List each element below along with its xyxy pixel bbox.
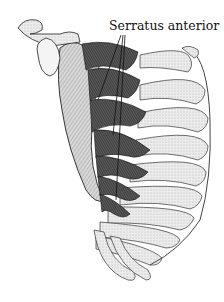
label-serratus-anterior: Serratus anterior	[109, 18, 219, 33]
rib-cage-figure	[0, 0, 224, 302]
